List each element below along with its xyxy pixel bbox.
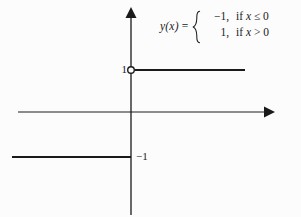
formula-case-row: −1 , if x ≤ 0 (204, 11, 269, 27)
case-condition-prefix: if (236, 10, 246, 22)
x-axis-arrowhead (264, 107, 275, 118)
y-tick-label-positive-one: 1 (113, 64, 127, 75)
case-condition: if x > 0 (236, 27, 269, 39)
formula-equals-sign: = (182, 21, 189, 33)
signum-function-figure: 1 −1 y(x) = −1 , if x ≤ 0 1 , if x > 0 (0, 0, 301, 217)
formula-function-name: y(x) (160, 21, 179, 33)
case-condition: if x ≤ 0 (236, 11, 269, 23)
case-value: 1 (204, 27, 226, 39)
y-axis-arrowhead (126, 7, 137, 18)
case-condition-rest: ≤ 0 (251, 10, 269, 22)
curly-brace-icon (192, 10, 201, 44)
case-comma: , (226, 27, 229, 39)
piecewise-formula: y(x) = −1 , if x ≤ 0 1 , if x > 0 (160, 10, 269, 44)
y-tick-label-negative-one: −1 (136, 151, 148, 162)
case-value: −1 (204, 11, 226, 23)
case-condition-rest: > 0 (251, 26, 269, 38)
formula-cases: −1 , if x ≤ 0 1 , if x > 0 (204, 11, 269, 43)
formula-case-row: 1 , if x > 0 (204, 27, 269, 43)
case-comma: , (226, 11, 229, 23)
open-circle-marker (128, 67, 135, 74)
case-condition-prefix: if (236, 26, 246, 38)
